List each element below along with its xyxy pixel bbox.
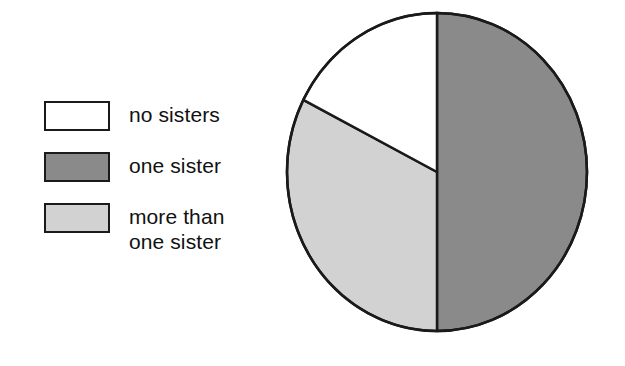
- legend-swatch-one-sister: [44, 152, 110, 182]
- pie-slice-group: [287, 13, 587, 331]
- legend-item-no-sisters: no sisters: [44, 100, 274, 131]
- pie-slice-one-sister: [437, 13, 587, 331]
- legend-label-no-sisters: no sisters: [129, 100, 220, 127]
- pie-svg: [285, 10, 593, 334]
- chart-legend: no sisters one sister more than one sist…: [44, 100, 274, 254]
- legend-label-more-than-one-sister: more than one sister: [129, 202, 224, 254]
- pie-chart-graphic: [285, 10, 593, 334]
- legend-item-more-than-one-sister: more than one sister: [44, 202, 274, 254]
- legend-item-one-sister: one sister: [44, 151, 274, 182]
- legend-label-one-sister: one sister: [129, 151, 221, 178]
- pie-chart-figure: no sisters one sister more than one sist…: [0, 0, 625, 366]
- legend-swatch-more-than-one-sister: [44, 203, 110, 233]
- legend-swatch-no-sisters: [44, 101, 110, 131]
